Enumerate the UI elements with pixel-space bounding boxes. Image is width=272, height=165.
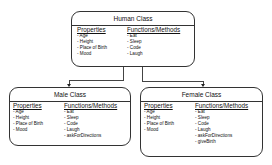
male-class-box: Male Class Properties Age Height Place o… (9, 87, 131, 146)
method-item: giveBirth (195, 139, 248, 145)
male-properties: Properties Age Height Place of Birth Moo… (13, 102, 43, 133)
methods-heading: Functions/Methods (195, 102, 248, 109)
properties-heading: Properties (13, 102, 43, 109)
connector-human-male-v1 (123, 66, 124, 81)
human-methods: Functions/Methods Eat Sleep Code Laugh (127, 26, 180, 57)
properties-heading: Properties (144, 102, 174, 109)
male-methods: Functions/Methods Eat Sleep Code Laugh a… (64, 102, 117, 139)
female-class-title: Female Class (141, 88, 262, 102)
human-properties: Properties Age Height Place of Birth Moo… (77, 26, 107, 57)
female-class-box: Female Class Properties Age Height Place… (140, 87, 263, 157)
property-item: Place of Birth (144, 121, 174, 127)
male-class-title: Male Class (10, 88, 130, 102)
human-class-title: Human Class (72, 12, 194, 26)
female-methods: Functions/Methods Eat Sleep Code Laugh a… (195, 102, 248, 144)
methods-heading: Functions/Methods (127, 26, 180, 33)
property-item: Place of Birth (13, 121, 43, 127)
methods-heading: Functions/Methods (64, 102, 117, 109)
property-item: Place of Birth (77, 45, 107, 51)
property-item: Mood (144, 127, 174, 133)
method-item: askForDirections (64, 133, 117, 139)
human-class-box: Human Class Properties Age Height Place … (71, 11, 195, 67)
connector-human-female-h (142, 81, 204, 82)
method-item: Laugh (127, 51, 180, 57)
property-item: Mood (77, 51, 107, 57)
female-properties: Properties Age Height Place of Birth Moo… (144, 102, 174, 133)
properties-heading: Properties (77, 26, 107, 33)
connector-human-male-h (69, 80, 124, 81)
property-item: Mood (13, 127, 43, 133)
connector-human-female-v1 (142, 66, 143, 82)
